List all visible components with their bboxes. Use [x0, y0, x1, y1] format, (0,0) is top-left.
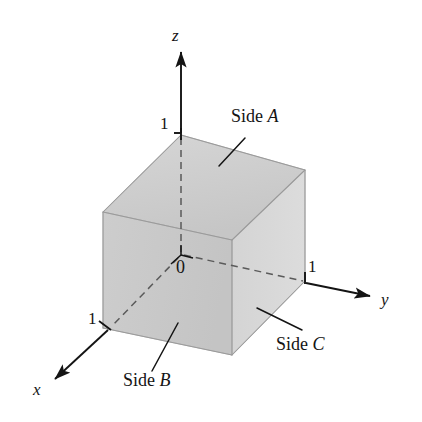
axis-label-x: x: [33, 381, 41, 398]
axis-tick-x-1: 1: [88, 310, 97, 327]
axis-y-line: [306, 283, 370, 296]
cube-body: [103, 135, 305, 355]
label-side-a-prefix: Side: [231, 106, 268, 126]
label-side-b-prefix: Side: [123, 370, 160, 390]
label-side-b: Side B: [123, 371, 171, 389]
origin-label: 0: [176, 258, 185, 276]
label-side-a: Side A: [231, 107, 279, 125]
label-side-c-letter: C: [313, 334, 325, 354]
axis-x-line: [55, 330, 108, 379]
cube-diagram: [0, 0, 422, 422]
axis-label-y: y: [381, 291, 389, 308]
axis-tick-z-1: 1: [160, 115, 169, 132]
label-side-a-letter: A: [268, 106, 279, 126]
label-side-c-prefix: Side: [276, 334, 313, 354]
axis-label-z: z: [172, 27, 179, 44]
label-side-c: Side C: [276, 335, 325, 353]
axis-tick-y-1: 1: [308, 258, 317, 275]
label-side-b-letter: B: [160, 370, 171, 390]
